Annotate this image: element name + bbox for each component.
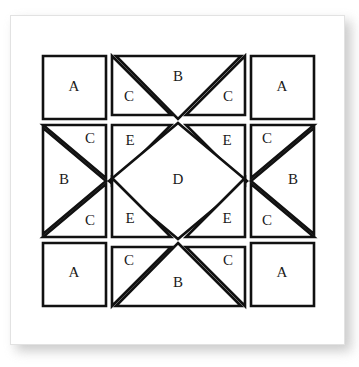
quilt-piece-a-bottom-left — [43, 243, 106, 306]
quilt-piece-a-top-left — [43, 56, 106, 119]
diagram-stage: ACBCACBCEEDEECBCACBCA — [0, 0, 359, 367]
quilt-piece-a-bottom-right — [251, 243, 314, 306]
quilt-block-diagram: ACBCACBCEEDEECBCACBCA — [11, 16, 346, 346]
pieces-layer — [43, 56, 314, 306]
diagram-card: ACBCACBCEEDEECBCACBCA — [10, 15, 345, 345]
quilt-piece-a-top-right — [251, 56, 314, 119]
